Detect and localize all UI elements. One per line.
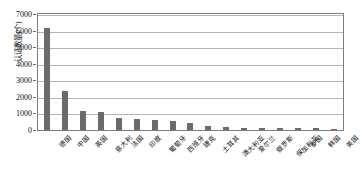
bar <box>331 129 337 130</box>
bar-slot <box>253 14 271 130</box>
y-axis-tick-label: 1000 <box>16 109 32 118</box>
bar <box>116 118 122 130</box>
x-axis-tick-label: 印度 <box>146 132 163 149</box>
x-axis-tick-label: 德国 <box>56 132 73 149</box>
bar <box>259 128 265 130</box>
bar <box>170 121 176 130</box>
x-axis-tick-label: 土耳其 <box>220 132 242 154</box>
y-axis-tick-mark <box>33 64 36 65</box>
y-axis-tick-label: 3000 <box>16 76 32 85</box>
bar-slot <box>307 14 325 130</box>
bar <box>241 128 247 130</box>
bar-slot <box>271 14 289 130</box>
x-axis-tick-label: 葡萄牙 <box>166 132 188 154</box>
y-axis-tick-mark <box>33 113 36 114</box>
bar-slot <box>56 14 74 130</box>
bar-slot <box>235 14 253 130</box>
bar-series <box>38 14 343 130</box>
bar-slot <box>38 14 56 130</box>
y-axis-tick-label: 7000 <box>16 10 32 19</box>
y-axis-tick-label: 6000 <box>16 26 32 35</box>
bar <box>295 128 301 130</box>
bar-slot <box>182 14 200 130</box>
bar-slot <box>92 14 110 130</box>
y-axis-tick-labels: 01000200030004000500060007000 <box>0 13 36 131</box>
bar-slot <box>110 14 128 130</box>
y-axis-tick-mark <box>33 14 36 15</box>
y-axis-tick-mark <box>33 130 36 131</box>
bar-slot <box>74 14 92 130</box>
bar <box>134 119 140 130</box>
bar-slot <box>146 14 164 130</box>
bar-slot <box>199 14 217 130</box>
bar-slot <box>164 14 182 130</box>
bar <box>277 128 283 130</box>
bar-slot <box>217 14 235 130</box>
x-axis-tick-label: 中国 <box>74 132 91 149</box>
bar <box>80 111 86 130</box>
bar <box>313 128 319 130</box>
bar <box>223 127 229 130</box>
x-axis-tick-label: 英国 <box>92 132 109 149</box>
y-axis-tick-mark <box>33 97 36 98</box>
bar <box>44 28 50 130</box>
y-axis-tick-label: 5000 <box>16 43 32 52</box>
bar <box>152 120 158 130</box>
x-axis-tick-label: 俄罗斯 <box>273 132 295 154</box>
y-axis-tick-mark <box>33 80 36 81</box>
y-axis-tick-mark <box>33 31 36 32</box>
y-axis-tick-label: 2000 <box>16 92 32 101</box>
y-axis-tick-label: 4000 <box>16 59 32 68</box>
x-axis-tick-label: 美国 <box>343 132 360 149</box>
bar-slot <box>325 14 343 130</box>
x-axis-tick-label: 韩国 <box>325 132 342 149</box>
bar-slot <box>128 14 146 130</box>
x-axis-tick-labels: 德国中国英国意大利法国印度葡萄牙西班牙捷克土耳其澳大利亚爱尔兰俄罗斯保加利亚泰国… <box>38 132 343 190</box>
bar <box>62 91 68 130</box>
bar-slot <box>289 14 307 130</box>
bar <box>205 126 211 130</box>
bar <box>98 112 104 130</box>
bar <box>187 123 193 130</box>
y-axis-tick-mark <box>33 47 36 48</box>
y-axis-tick-label: 0 <box>28 126 32 135</box>
